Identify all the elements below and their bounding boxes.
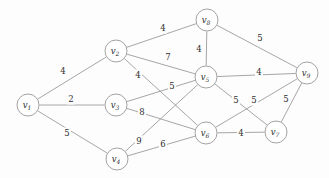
graph-canvas: v1v2v3v4v5v6v7v8v9 42547458964545545 <box>0 0 329 178</box>
graph-edge <box>38 111 107 153</box>
edge-weight-v3-v6: 8 <box>139 107 144 117</box>
graph-edge <box>206 31 207 65</box>
edge-weight-v1-v3: 2 <box>68 94 73 104</box>
edge-weight-v1-v2: 4 <box>60 66 65 76</box>
edge-weight-v2-v8: 4 <box>160 23 165 33</box>
graph-edge <box>217 25 297 67</box>
edge-weight-v6-v9: 5 <box>251 95 256 105</box>
graph-figure: v1v2v3v4v5v6v7v8v9 42547458964545545 <box>0 0 329 178</box>
edge-weight-v8-v9: 5 <box>257 33 262 43</box>
edge-weight-v7-v9: 5 <box>283 94 288 104</box>
edge-weight-v5-v7: 5 <box>233 95 238 105</box>
edge-weight-v4-v6: 6 <box>160 139 165 149</box>
graph-edge <box>127 80 195 101</box>
graph-edge <box>125 59 198 126</box>
edge-weights-layer: 42547458964545545 <box>59 23 290 150</box>
edge-weight-v2-v5: 7 <box>165 52 170 62</box>
edge-weight-v3-v5: 5 <box>169 81 174 91</box>
edge-weight-v8-v5: 4 <box>196 44 201 54</box>
graph-edge <box>215 84 267 125</box>
edge-weight-v5-v9: 4 <box>256 67 261 77</box>
edge-weight-v2-v6: 4 <box>135 70 140 80</box>
edge-weight-v1-v4: 5 <box>64 128 69 138</box>
edge-weight-v6-v7: 4 <box>238 128 243 138</box>
graph-edge <box>38 57 106 99</box>
edge-weight-v4-v5: 9 <box>136 136 141 146</box>
